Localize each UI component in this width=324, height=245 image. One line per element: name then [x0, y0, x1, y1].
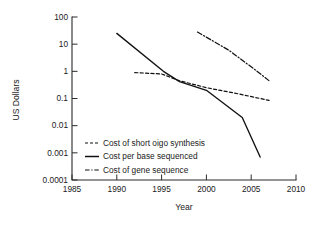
y-tick-label: 10	[59, 39, 69, 49]
x-tick-label: 1995	[152, 184, 171, 194]
y-tick-label: 0.1	[56, 93, 68, 103]
chart-legend: Cost of short oigo synthesisCost per bas…	[85, 138, 205, 175]
x-tick-label: 2000	[197, 184, 216, 194]
x-tick-label: 2005	[242, 184, 261, 194]
legend-label: Cost per base sequenced	[103, 151, 198, 161]
x-tick-label: 1985	[63, 184, 82, 194]
x-tick-label: 2010	[287, 184, 306, 194]
legend-label: Cost of short oigo synthesis	[103, 138, 205, 148]
y-tick-label: 1	[63, 66, 68, 76]
x-tick-label: 1990	[108, 184, 127, 194]
y-axis-title: US Dollars	[11, 79, 21, 120]
series-line-dashdot	[197, 32, 269, 81]
line-chart-svg: 1001010.10.010.0010.0001 198519901995200…	[0, 0, 324, 245]
y-tick-label: 0.001	[47, 148, 68, 158]
y-tick-label: 0.01	[52, 120, 69, 130]
x-axis-ticks: 198519901995200020052010	[63, 175, 306, 195]
y-tick-label: 100	[54, 12, 68, 22]
legend-label: Cost of gene sequence	[103, 165, 189, 175]
chart-figure: 1001010.10.010.0010.0001 198519901995200…	[0, 0, 324, 245]
y-tick-label: 0.0001	[43, 175, 69, 185]
series-line-dashed	[135, 73, 269, 101]
x-axis-title: Year	[175, 202, 193, 212]
